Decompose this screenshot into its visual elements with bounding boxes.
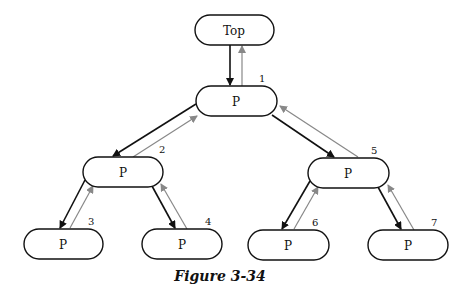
node-4: P — [142, 229, 222, 259]
node-1: P — [196, 86, 277, 116]
up-arrow-icon — [280, 106, 358, 157]
node-label: P — [404, 239, 412, 253]
node-5: P — [308, 158, 389, 188]
edge-top-n1 — [230, 45, 242, 86]
node-number: 4 — [205, 216, 211, 227]
edge-n1-n2 — [113, 104, 197, 157]
node-number: 3 — [88, 216, 94, 227]
up-arrow-icon — [161, 184, 187, 229]
down-arrow-icon — [282, 181, 310, 229]
node-label: Top — [223, 24, 245, 38]
node-label: P — [284, 239, 292, 253]
node-label: P — [119, 166, 127, 180]
node-number: 6 — [312, 217, 318, 228]
node-7: P — [368, 230, 448, 260]
node-number: 7 — [431, 217, 437, 228]
edge-n2-n4 — [152, 184, 187, 229]
node-number: 1 — [259, 73, 265, 84]
figure-caption: Figure 3-34 — [173, 268, 265, 284]
node-label: P — [344, 167, 352, 181]
node-3: P — [24, 229, 103, 259]
node-top: Top — [195, 15, 274, 45]
down-arrow-icon — [152, 186, 175, 228]
down-arrow-icon — [378, 187, 401, 229]
down-arrow-icon — [60, 180, 85, 228]
edge-n1-n5 — [272, 106, 358, 157]
node-label: P — [178, 238, 186, 252]
edge-n5-n7 — [378, 185, 414, 230]
node-6: P — [248, 230, 329, 260]
node-label: P — [59, 238, 67, 252]
node-number: 2 — [159, 144, 165, 155]
node-number: 5 — [371, 145, 377, 156]
tree-diagram: Top P 1 P 2 P 3 P 4 P 5 P 6 P 7 Figure 3… — [0, 0, 471, 290]
down-arrow-icon — [113, 104, 196, 156]
node-2: P — [83, 157, 163, 187]
up-arrow-icon — [388, 185, 414, 230]
node-label: P — [232, 95, 240, 109]
